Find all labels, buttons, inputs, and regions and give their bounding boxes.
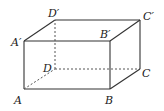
vertex-label-D1: D′ xyxy=(47,7,60,20)
vertex-label-A: A xyxy=(13,94,22,107)
vertex-label-C1: C′ xyxy=(143,10,154,23)
vertex-label-D: D xyxy=(42,62,52,75)
edge-B-C xyxy=(110,69,140,89)
vertex-label-B: B xyxy=(104,94,113,107)
vertex-label-B1: B′ xyxy=(99,28,111,41)
edge-B1-C1 xyxy=(110,20,140,41)
vertex-label-A1: A′ xyxy=(10,36,22,49)
edge-D1-A1 xyxy=(24,20,55,41)
vertex-label-C: C xyxy=(142,67,151,80)
cuboid-diagram: A′ D′ C′ B′ D C A B xyxy=(0,0,164,111)
